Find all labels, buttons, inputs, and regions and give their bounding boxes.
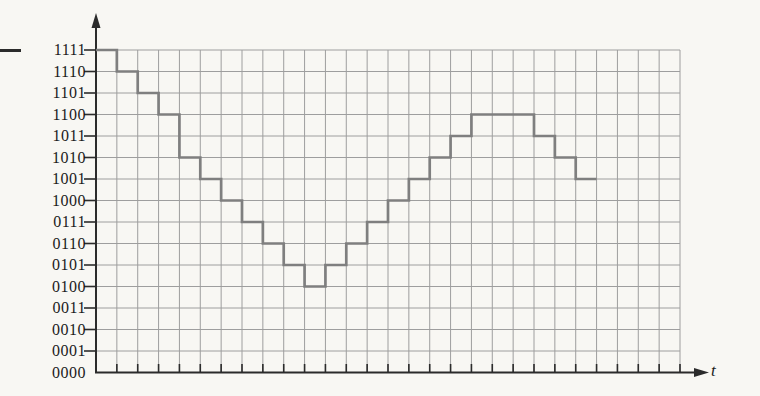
y-tick-label-1011: 1011 — [0, 126, 86, 146]
y-tick-label-1000: 1000 — [0, 191, 86, 211]
y-tick-label-0010: 0010 — [0, 320, 86, 340]
y-tick-label-0100: 0100 — [0, 277, 86, 297]
y-tick-label-0000: 0000 — [0, 363, 86, 383]
y-tick-label-1101: 1101 — [0, 83, 86, 103]
y-tick-label-0101: 0101 — [0, 255, 86, 275]
y-tick-label-0011: 0011 — [0, 298, 86, 318]
staircase-waveform-figure: 1111111011011100101110101001100001110110… — [0, 0, 760, 396]
y-tick-label-1100: 1100 — [0, 105, 86, 125]
y-tick-label-1010: 1010 — [0, 148, 86, 168]
x-axis-arrowhead — [694, 368, 709, 377]
y-tick-label-0111: 0111 — [0, 212, 86, 232]
x-axis-label: t — [711, 361, 751, 383]
y-tick-label-1111: 1111 — [0, 40, 86, 60]
y-tick-label-0001: 0001 — [0, 341, 86, 361]
y-axis-labels: 1111111011011100101110101001100001110110… — [0, 0, 86, 396]
y-tick-label-1001: 1001 — [0, 169, 86, 189]
y-tick-label-0110: 0110 — [0, 234, 86, 254]
y-tick-label-1110: 1110 — [0, 62, 86, 82]
staircase-chart-svg — [0, 0, 760, 396]
y-axis-arrowhead — [92, 13, 101, 28]
